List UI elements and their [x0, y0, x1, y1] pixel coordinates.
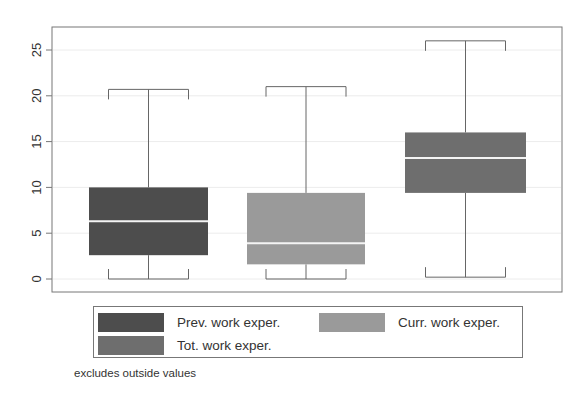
iqr-box — [247, 193, 365, 264]
legend-swatch — [319, 313, 385, 332]
y-tick-label: 20 — [29, 89, 44, 103]
legend-label: Curr. work exper. — [398, 315, 500, 330]
box-plot: 0510152025 — [0, 0, 584, 300]
legend-item-tot: Tot. work exper. — [98, 336, 272, 355]
legend-label: Tot. work exper. — [177, 338, 272, 353]
legend-swatch — [98, 336, 164, 355]
box-0 — [89, 89, 208, 279]
legend-swatch — [98, 313, 164, 332]
footnote: excludes outside values — [74, 367, 196, 379]
y-tick-label: 10 — [29, 180, 44, 194]
legend-item-curr: Curr. work exper. — [319, 313, 500, 332]
boxes — [89, 41, 526, 279]
y-tick-label: 15 — [29, 134, 44, 148]
box-1 — [247, 87, 365, 279]
legend-label: Prev. work exper. — [177, 315, 280, 330]
y-tick-label: 25 — [29, 43, 44, 57]
legend: Prev. work exper. Curr. work exper. Tot.… — [93, 306, 523, 358]
y-axis: 0510152025 — [29, 43, 52, 283]
y-tick-label: 0 — [29, 275, 44, 282]
box-2 — [405, 41, 526, 277]
y-tick-label: 5 — [29, 230, 44, 237]
legend-item-prev: Prev. work exper. — [98, 313, 280, 332]
iqr-box — [405, 132, 526, 192]
